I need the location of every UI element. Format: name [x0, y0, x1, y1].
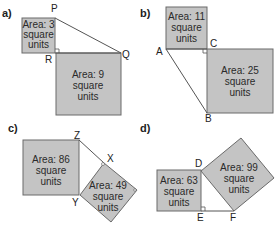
right-angle-marker-a [55, 49, 59, 53]
area-unit-c-large-1: square [36, 165, 67, 176]
vertex-d: D [195, 158, 202, 169]
part-label-b: b) [140, 7, 151, 19]
part-label-a: a) [2, 7, 12, 19]
area-unit-d-rotated-1: square [224, 173, 255, 184]
area-unit-d-small-1: square [164, 186, 195, 197]
area-label-b-small: Area: 11 [168, 11, 205, 22]
area-unit-b-large-1: square [225, 76, 256, 87]
vertex-e: E [197, 212, 204, 223]
area-label-c-rotated: Area: 49 [89, 180, 127, 191]
vertex-a: A [156, 46, 163, 57]
area-label-d-small: Area: 63 [160, 175, 198, 186]
vertex-c: C [210, 38, 217, 49]
area-unit-d-small-2: units [168, 197, 189, 208]
right-angle-marker-d [201, 207, 205, 211]
pythagoras-diagrams: a) P Q R Area: 3 square units Area: 9 sq… [0, 0, 277, 227]
vertex-f: F [230, 212, 236, 223]
diagram-a: a) P Q R Area: 3 square units Area: 9 sq… [2, 3, 130, 115]
diagram-b: b) A C B Area: 11 square units Area: 25 … [140, 7, 273, 124]
vertex-q: Q [122, 49, 130, 60]
vertex-b: B [205, 113, 212, 124]
vertex-p: P [51, 3, 58, 14]
area-unit-a-small-2: units [28, 39, 49, 50]
right-angle-marker-c [102, 163, 105, 166]
area-unit-c-rotated-1: square [93, 191, 124, 202]
area-label-d-rotated: Area: 99 [220, 162, 258, 173]
area-unit-a-large-1: square [73, 80, 104, 91]
hypotenuse-ab [166, 49, 207, 113]
area-unit-c-rotated-2: units [97, 202, 118, 213]
area-unit-d-rotated-2: units [228, 184, 249, 195]
diagram-d: d) D E F Area: 63 square units Area: 99 … [140, 122, 274, 223]
side-zx [79, 140, 104, 163]
part-label-d: d) [140, 122, 151, 134]
area-unit-b-small-1: square [171, 22, 202, 33]
area-unit-b-small-2: units [176, 33, 197, 44]
vertex-x: X [107, 153, 114, 164]
part-label-c: c) [8, 122, 18, 134]
area-unit-b-large-2: units [229, 87, 250, 98]
area-label-b-large: Area: 25 [221, 65, 259, 76]
area-unit-a-large-2: units [77, 91, 98, 102]
right-angle-marker-b [203, 49, 207, 53]
area-label-c-large: Area: 86 [32, 154, 70, 165]
diagram-c: c) Z X Y Area: 86 square units Area: 49 … [8, 122, 137, 222]
vertex-y: Y [72, 197, 79, 208]
corner-dot-c [134, 189, 137, 192]
area-label-a-large: Area: 9 [72, 69, 105, 80]
area-unit-c-large-2: units [40, 176, 61, 187]
vertex-z: Z [74, 130, 80, 141]
hypotenuse-pq [55, 18, 121, 53]
vertex-r: R [45, 54, 52, 65]
